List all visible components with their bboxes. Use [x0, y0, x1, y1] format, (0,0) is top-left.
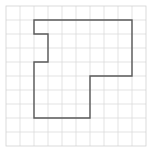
figure-container [0, 0, 152, 152]
grid-polygon-figure [0, 0, 152, 152]
